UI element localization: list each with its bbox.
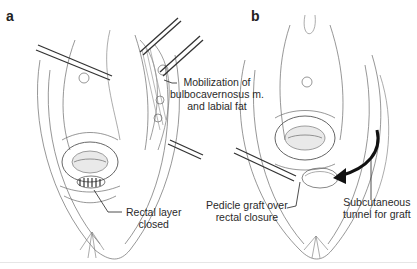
label-mobilization: Mobilization of bulbocavernosus m. and l… <box>170 76 264 112</box>
illustration-drawing <box>0 0 417 269</box>
panel-letter-a: a <box>6 8 14 24</box>
panel-letter-b: b <box>251 8 260 24</box>
label-rectal-layer: Rectal layer closed <box>126 206 181 230</box>
surgical-figure: a b Mobilization of bulbocavernosus m. a… <box>0 0 417 269</box>
label-subcutaneous-tunnel: Subcutaneous tunnel for graft <box>343 196 411 220</box>
label-pedicle-graft: Pedicle graft over rectal closure <box>206 199 288 223</box>
forceps-instruments-b <box>234 148 296 181</box>
divider <box>0 262 417 263</box>
